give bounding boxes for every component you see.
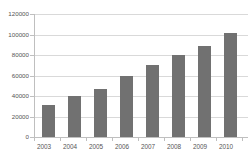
x-tick-2003 <box>34 138 35 141</box>
x-tick-2010 <box>216 138 217 141</box>
y-tick-20000 <box>30 117 34 118</box>
x-tick-2008 <box>164 138 165 141</box>
y-tick-40000 <box>30 96 34 97</box>
y-tick-100000 <box>30 35 34 36</box>
y-tick-label-100000: 100000 <box>0 32 29 38</box>
y-tick-label-20000: 20000 <box>0 114 29 120</box>
y-tick-60000 <box>30 76 34 77</box>
y-tick-label-0: 0 <box>0 134 29 140</box>
x-tick-2005 <box>86 138 87 141</box>
x-tick-2007 <box>138 138 139 141</box>
x-tick-2004 <box>60 138 61 141</box>
y-tick-label-120000: 120000 <box>0 11 29 17</box>
x-tick-end <box>242 138 243 141</box>
y-tick-label-40000: 40000 <box>0 93 29 99</box>
y-tick-80000 <box>30 55 34 56</box>
y-axis-labels: 120000 100000 80000 60000 40000 20000 0 <box>0 0 252 164</box>
y-tick-label-80000: 80000 <box>0 52 29 58</box>
x-tick-2006 <box>112 138 113 141</box>
x-tick-2009 <box>190 138 191 141</box>
x-tick-label-2010: 2010 <box>209 144 243 150</box>
y-tick-120000 <box>30 14 34 15</box>
y-tick-label-60000: 60000 <box>0 73 29 79</box>
bar-chart: 120000 100000 80000 60000 40000 20000 0 … <box>0 0 252 164</box>
